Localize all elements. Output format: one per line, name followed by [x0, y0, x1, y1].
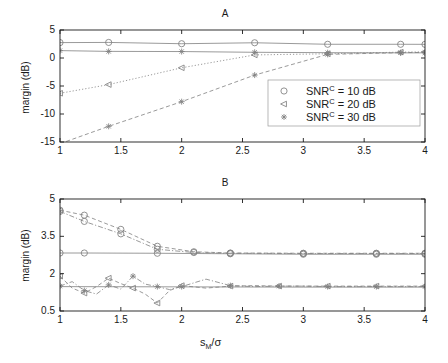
x-tick-label: 2.5 — [234, 145, 252, 156]
legend: SNRC = 10 dBSNRC = 20 dBSNRC = 30 dB — [268, 80, 420, 126]
x-tick-label: 2.5 — [234, 314, 252, 325]
series-layer — [57, 207, 429, 306]
data-series — [57, 273, 428, 294]
x-tick-label: 3 — [294, 145, 312, 156]
x-tick-label: 3.5 — [355, 145, 373, 156]
x-tick-label: 2 — [173, 145, 191, 156]
data-series — [57, 39, 428, 47]
y-tick-label: 2 — [22, 268, 55, 279]
x-tick-label: 1.5 — [112, 314, 130, 325]
y-tick-label: -5 — [22, 80, 55, 91]
x-tick-label: 3 — [294, 314, 312, 325]
legend-label: SNRC = 10 dB — [306, 84, 376, 97]
x-tick-label: 1.5 — [112, 145, 130, 156]
y-tick-label: 5 — [22, 24, 55, 35]
x-tick-label: 4 — [416, 145, 434, 156]
x-axis-label: sM/σ — [200, 336, 221, 350]
panel-a-plot: SNRC = 10 dBSNRC = 20 dBSNRC = 30 dB — [0, 22, 448, 162]
panel-b-plot — [0, 191, 448, 331]
x-tick-label: 3.5 — [355, 314, 373, 325]
x-axis-label-rest: /σ — [211, 336, 221, 348]
x-tick-label: 4 — [416, 314, 434, 325]
panel-b-title: B — [195, 177, 255, 188]
x-tick-label: 2 — [173, 314, 191, 325]
y-tick-label: 0 — [22, 52, 55, 63]
y-tick-label: 3.5 — [22, 230, 55, 241]
y-tick-label: 0.5 — [22, 305, 55, 316]
y-tick-label: -15 — [22, 136, 55, 147]
data-series — [57, 48, 428, 56]
data-series — [57, 273, 428, 305]
figure-root: A margin (dB) SNRC = 10 dBSNRC = 20 dBSN… — [0, 0, 448, 363]
y-tick-label: 5 — [22, 193, 55, 204]
y-tick-label: -10 — [22, 108, 55, 119]
axes-frame — [60, 199, 425, 311]
legend-label: SNRC = 20 dB — [306, 97, 376, 110]
data-series — [57, 208, 428, 256]
legend-label: SNRC = 30 dB — [306, 110, 376, 123]
data-series — [57, 207, 428, 256]
panel-a-title: A — [195, 8, 255, 19]
